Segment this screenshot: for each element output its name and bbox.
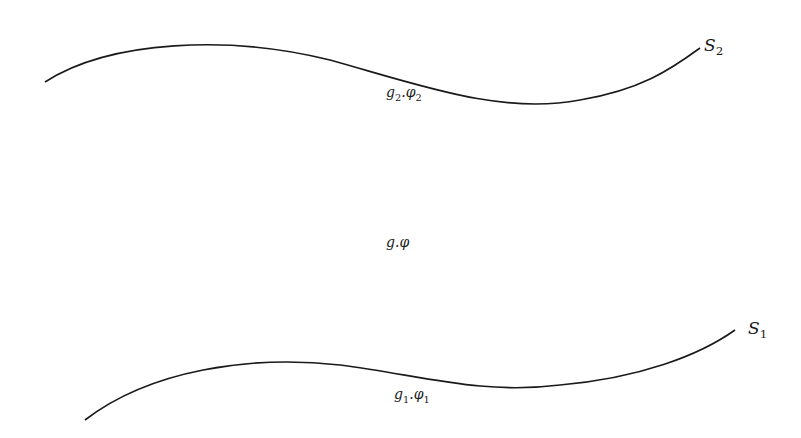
surface-s2-fields-label: g2.φ2 (386, 84, 422, 103)
surfaces-drawing (0, 0, 801, 438)
bulk-fields-label: g.φ (386, 234, 409, 250)
surface-s2-label: S2 (704, 35, 723, 58)
surface-s1-label: S1 (748, 318, 767, 341)
surface-s1-fields-label: g1.φ1 (394, 386, 430, 405)
surface-s2-curve (45, 45, 700, 104)
diagram-canvas: S2 g2.φ2 g.φ S1 g1.φ1 (0, 0, 801, 438)
surface-s1-curve (85, 330, 735, 420)
